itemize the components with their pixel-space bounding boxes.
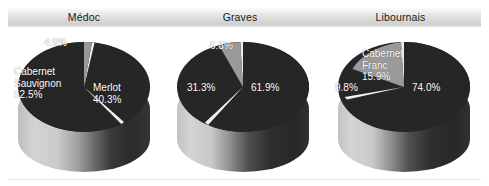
slice-label-cabernet-franc: Cabernet Franc 15.9% (362, 48, 403, 83)
slice-label-other: 6.8% (210, 40, 233, 52)
slice-label-merlot: Merlot 40.3% (93, 82, 121, 105)
slice-label-other: 4.9% (44, 37, 67, 49)
region-header-medoc: Médoc (8, 8, 160, 27)
region-header-graves: Graves (160, 8, 320, 27)
slice-label-minor: 31.3% (187, 82, 215, 94)
slice-label-major: 61.9% (251, 82, 279, 94)
slice-label-other: 9.8% (335, 82, 358, 94)
slice-label-major: 74.0% (412, 82, 440, 94)
region-header-libournais: Libournais (320, 8, 481, 27)
slice-label-cabernet-sauvignon: Cabernet Sauvignon 52.5% (14, 66, 61, 101)
figure-panel: Médoc Graves Libournais Cabernet Sauvign… (0, 0, 489, 186)
region-header-band: Médoc Graves Libournais (8, 8, 481, 27)
pie-chart-libournais: 74.0% Cabernet Franc 15.9% 9.8% (324, 28, 484, 176)
figure-bottom-divider (8, 179, 481, 180)
pie-chart-graves: 61.9% 31.3% 6.8% (163, 28, 323, 176)
pie-chart-medoc: Cabernet Sauvignon 52.5% Merlot 40.3% 4.… (4, 28, 164, 176)
